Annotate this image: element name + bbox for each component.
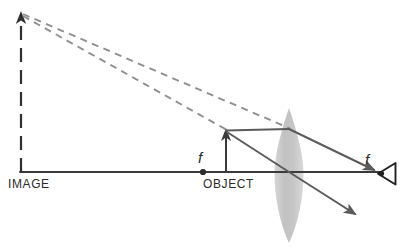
focal-label-left: f bbox=[198, 149, 204, 166]
parallel-ray-incident bbox=[226, 129, 289, 131]
virtual-extension-lower bbox=[23, 16, 227, 130]
ray-diagram-canvas: IMAGE OBJECT f f bbox=[0, 0, 405, 249]
virtual-ray-extensions bbox=[23, 14, 290, 130]
eye-icon bbox=[378, 163, 396, 185]
object-label: OBJECT bbox=[203, 177, 254, 191]
virtual-extension-upper bbox=[23, 14, 290, 129]
focal-point-dot-icon bbox=[200, 169, 206, 175]
image-label: IMAGE bbox=[8, 177, 50, 191]
eye-pupil bbox=[379, 171, 384, 176]
optics-ray-diagram: IMAGE OBJECT f f bbox=[0, 0, 405, 249]
focal-label-right: f bbox=[365, 151, 371, 168]
image-arrow-icon bbox=[16, 11, 26, 172]
